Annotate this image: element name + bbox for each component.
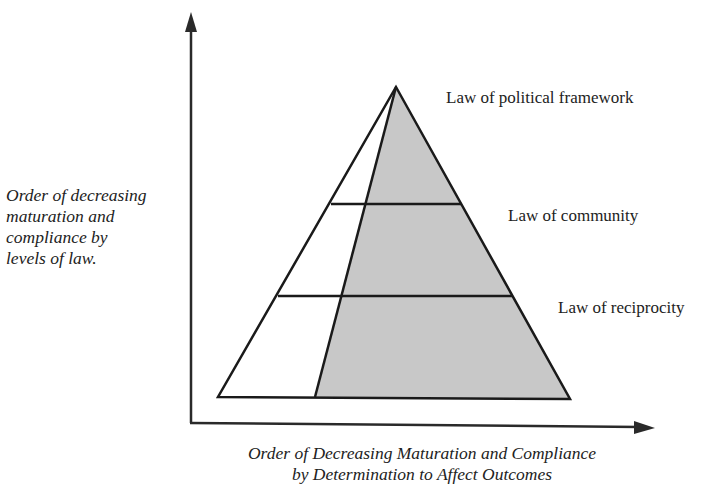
y-axis-arrow-icon — [185, 12, 197, 32]
x-axis-label-line: by Determination to Affect Outcomes — [198, 464, 646, 485]
y-axis-label-line: levels of law. — [6, 248, 196, 269]
level-label-reciprocity: Law of reciprocity — [558, 298, 685, 318]
y-axis-label-line: maturation and — [6, 206, 196, 227]
level-label-political-framework: Law of political framework — [446, 88, 633, 108]
level-label-community: Law of community — [508, 206, 638, 226]
y-axis-label-line: Order of decreasing — [6, 185, 196, 206]
x-axis-label: Order of Decreasing Maturation and Compl… — [198, 443, 646, 485]
x-axis-line — [190, 423, 640, 427]
x-axis-arrow-icon — [634, 421, 655, 434]
pyramid-diagram: Order of decreasing maturation and compl… — [0, 0, 728, 485]
x-axis-label-line: Order of Decreasing Maturation and Compl… — [198, 443, 646, 464]
y-axis-label-line: compliance by — [6, 227, 196, 248]
y-axis-label: Order of decreasing maturation and compl… — [6, 185, 196, 269]
